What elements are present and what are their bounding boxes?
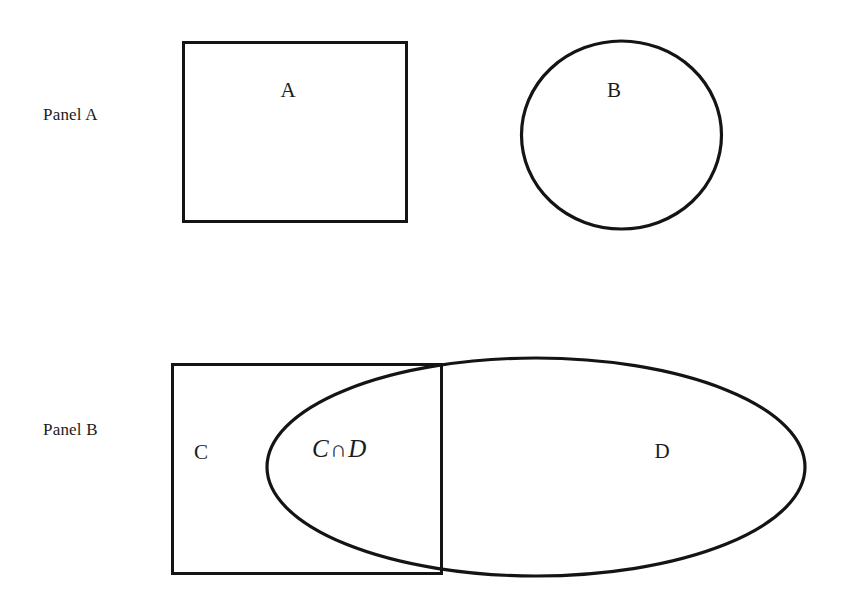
intersection-left-operand: C [312, 435, 329, 462]
set-label-a: A [276, 80, 300, 101]
set-label-b: B [602, 80, 626, 101]
panel-b-shapes [173, 358, 806, 576]
diagram-canvas [0, 0, 846, 598]
panel-a-label: Panel A [43, 106, 98, 123]
set-diagram-figure: Panel A Panel B A B C D C∩D [0, 0, 846, 598]
intersection-operator-icon: ∩ [329, 437, 348, 462]
set-label-d: D [650, 441, 674, 462]
ellipse-d-shape [267, 358, 805, 576]
panel-a-shapes [184, 41, 722, 229]
panel-b-label: Panel B [43, 421, 98, 438]
intersection-right-operand: D [348, 435, 367, 462]
circle-b-shape [522, 41, 722, 229]
rectangle-c-shape [173, 365, 442, 574]
rectangle-a-shape [184, 43, 407, 222]
intersection-label-c-and-d: C∩D [312, 436, 367, 461]
set-label-c: C [190, 442, 212, 463]
